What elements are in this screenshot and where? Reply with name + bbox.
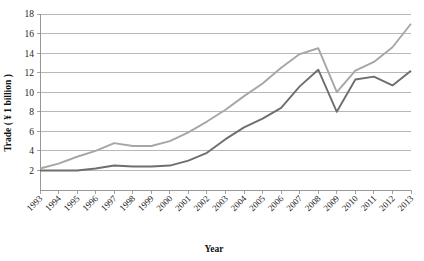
y-tick-label: 12 bbox=[25, 68, 35, 78]
y-tick-label: 16 bbox=[25, 29, 35, 39]
x-tick-label: 1993 bbox=[25, 193, 45, 213]
x-tick-label: 2008 bbox=[303, 193, 323, 213]
y-tick-label: 6 bbox=[29, 127, 34, 137]
axes-group bbox=[37, 14, 411, 194]
series-group bbox=[40, 24, 411, 171]
x-tick-label: 2007 bbox=[284, 193, 304, 213]
x-axis-title: Year bbox=[205, 244, 225, 254]
y-tick-label: 2 bbox=[29, 166, 34, 176]
x-tick-label: 2010 bbox=[340, 193, 360, 213]
x-tick-label: 2006 bbox=[266, 193, 286, 213]
y-tick-label: 10 bbox=[25, 88, 35, 98]
y-tick-label: 4 bbox=[29, 146, 34, 156]
line-chart: 24681012141618 1993199419951996199719981… bbox=[0, 0, 424, 261]
x-tick-label: 2002 bbox=[192, 193, 212, 213]
x-tick-label: 2003 bbox=[210, 193, 230, 213]
chart-canvas: 24681012141618 1993199419951996199719981… bbox=[0, 0, 424, 261]
y-axis-title: Trade ( ¥ 1 billion ) bbox=[3, 74, 14, 152]
series-series-dark bbox=[40, 70, 411, 171]
y-tick-label: 14 bbox=[25, 49, 35, 59]
ytick-labels-group: 24681012141618 bbox=[25, 9, 35, 175]
x-tick-label: 1999 bbox=[136, 193, 156, 213]
x-tick-label: 2013 bbox=[396, 193, 416, 213]
x-tick-label: 1998 bbox=[117, 193, 137, 213]
x-tick-label: 2005 bbox=[247, 193, 267, 213]
x-tick-label: 2012 bbox=[377, 193, 397, 213]
y-tick-label: 18 bbox=[25, 9, 35, 19]
x-tick-label: 2001 bbox=[173, 193, 193, 213]
x-tick-label: 1995 bbox=[62, 193, 82, 213]
x-tick-label: 2009 bbox=[321, 193, 341, 213]
x-tick-label: 2000 bbox=[154, 193, 174, 213]
x-tick-label: 1996 bbox=[80, 193, 100, 213]
x-tick-label: 2011 bbox=[359, 193, 379, 213]
series-series-light bbox=[40, 24, 411, 169]
x-tick-label: 2004 bbox=[229, 193, 249, 213]
y-tick-label: 8 bbox=[29, 107, 34, 117]
x-tick-label: 1997 bbox=[99, 193, 119, 213]
xtick-labels-group: 1993199419951996199719981999200020012002… bbox=[25, 193, 416, 213]
gridlines-group bbox=[40, 14, 411, 170]
x-tick-label: 1994 bbox=[43, 193, 63, 213]
